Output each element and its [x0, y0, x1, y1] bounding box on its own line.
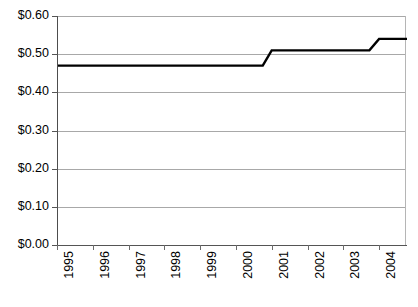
y-tick-label: $0.40 — [18, 85, 49, 98]
x-tick-mark — [236, 245, 237, 250]
x-tick-mark — [200, 245, 201, 250]
x-tick-label: 1996 — [98, 251, 112, 279]
x-tick-mark — [379, 245, 380, 250]
y-tick-label: $0.60 — [18, 9, 49, 22]
x-tick-label: 2003 — [348, 251, 362, 279]
x-tick-label: 2004 — [384, 251, 398, 279]
x-tick-mark — [93, 245, 94, 250]
y-tick-label: $0.20 — [18, 162, 49, 175]
y-tick-label: $0.10 — [18, 200, 49, 213]
y-axis-labels: $0.00$0.10$0.20$0.30$0.40$0.50$0.60 — [0, 0, 53, 307]
x-tick-label: 2000 — [241, 251, 255, 279]
x-tick-mark — [343, 245, 344, 250]
x-tick-mark — [129, 245, 130, 250]
y-tick-label: $0.00 — [18, 238, 49, 251]
y-tick-label: $0.50 — [18, 47, 49, 60]
x-tick-label: 2002 — [313, 251, 327, 279]
y-tick-label: $0.30 — [18, 124, 49, 137]
x-tick-label: 1998 — [169, 251, 183, 279]
x-axis-labels: 1995199619971998199920002001200220032004 — [57, 251, 407, 307]
chart-container: $0.00$0.10$0.20$0.30$0.40$0.50$0.60 1995… — [0, 0, 418, 307]
x-tick-mark — [57, 245, 58, 250]
series-line-price — [58, 16, 407, 245]
x-tick-label: 2001 — [277, 251, 291, 279]
x-tick-label: 1995 — [62, 251, 76, 279]
x-tick-label: 1999 — [205, 251, 219, 279]
plot-area — [57, 16, 406, 245]
x-tick-label: 1997 — [134, 251, 148, 279]
series-path — [58, 39, 407, 66]
x-tick-mark — [164, 245, 165, 250]
x-tick-mark — [272, 245, 273, 250]
x-tick-mark — [308, 245, 309, 250]
